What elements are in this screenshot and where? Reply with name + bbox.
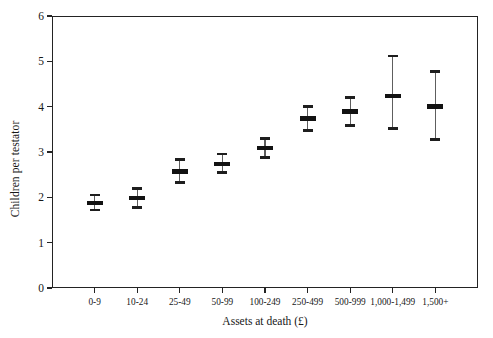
x-axis-tick-label: 1,000-1,499 (370, 296, 415, 308)
x-axis-tick-mark (179, 288, 180, 293)
y-axis-title: Children per testator (6, 0, 24, 338)
y-axis-tick-label: 4 (38, 98, 44, 116)
x-axis-tick-mark (350, 288, 351, 293)
x-axis-tick-mark (435, 288, 436, 293)
y-axis-tick-label: 5 (38, 52, 44, 70)
y-axis-tick-label: 1 (38, 234, 44, 252)
x-axis-tick-mark (137, 288, 138, 293)
x-axis-tick-label: 50-99 (212, 296, 234, 308)
x-axis-tick-label: 1,500+ (422, 296, 448, 308)
x-axis-tick-label: 0-9 (88, 296, 100, 308)
y-axis-tick-label: 3 (38, 143, 44, 161)
x-axis-tick-label: 250-499 (292, 296, 323, 308)
y-axis-title-label: Children per testator (9, 121, 21, 218)
x-axis-tick-label: 500-999 (335, 296, 366, 308)
x-axis-tick-label: 10-24 (126, 296, 148, 308)
x-axis-tick-mark (307, 288, 308, 293)
y-axis-tick-label: 6 (38, 7, 44, 25)
x-axis: 0-910-2425-4950-99100-249250-499500-9991… (0, 288, 493, 338)
plot-area-frame (52, 16, 478, 288)
x-axis-tick-mark (264, 288, 265, 293)
y-axis-tick-label: 0 (38, 279, 44, 297)
x-axis-tick-mark (392, 288, 393, 293)
x-axis-title: Assets at death (£) (52, 315, 478, 327)
chart-figure: Children per testator 0123456 0-910-2425… (0, 0, 493, 338)
x-axis-tick-mark (222, 288, 223, 293)
x-axis-tick-mark (94, 288, 95, 293)
x-axis-tick-label: 25-49 (169, 296, 191, 308)
x-axis-tick-label: 100-249 (250, 296, 281, 308)
y-axis-tick-label: 2 (38, 188, 44, 206)
